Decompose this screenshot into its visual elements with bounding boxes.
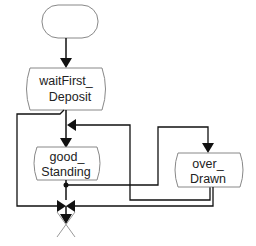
arrowhead-left-icon xyxy=(67,119,76,131)
state-over-drawn[interactable]: over_ Drawn xyxy=(175,153,243,187)
state-waitfirst-deposit[interactable]: waitFirst_ Deposit xyxy=(27,68,106,110)
state-label-line1: over_ xyxy=(192,157,224,171)
arrowhead-down-icon xyxy=(60,58,72,68)
connector-overdrawn-to-join xyxy=(75,187,213,206)
state-label-line1: waitFirst_ xyxy=(38,74,94,88)
state-label-line2: Standing xyxy=(41,165,90,179)
state-good-standing[interactable]: good_ Standing xyxy=(34,147,100,180)
state-label-line2: Drawn xyxy=(190,172,226,186)
state-label-line2: Deposit xyxy=(49,90,92,104)
state-label-line1: good_ xyxy=(50,150,86,164)
arrowhead-down-icon xyxy=(202,143,214,153)
start-terminal[interactable] xyxy=(42,5,98,38)
state-diagram: waitFirst_ Deposit good_ Standing over_ … xyxy=(0,0,256,246)
